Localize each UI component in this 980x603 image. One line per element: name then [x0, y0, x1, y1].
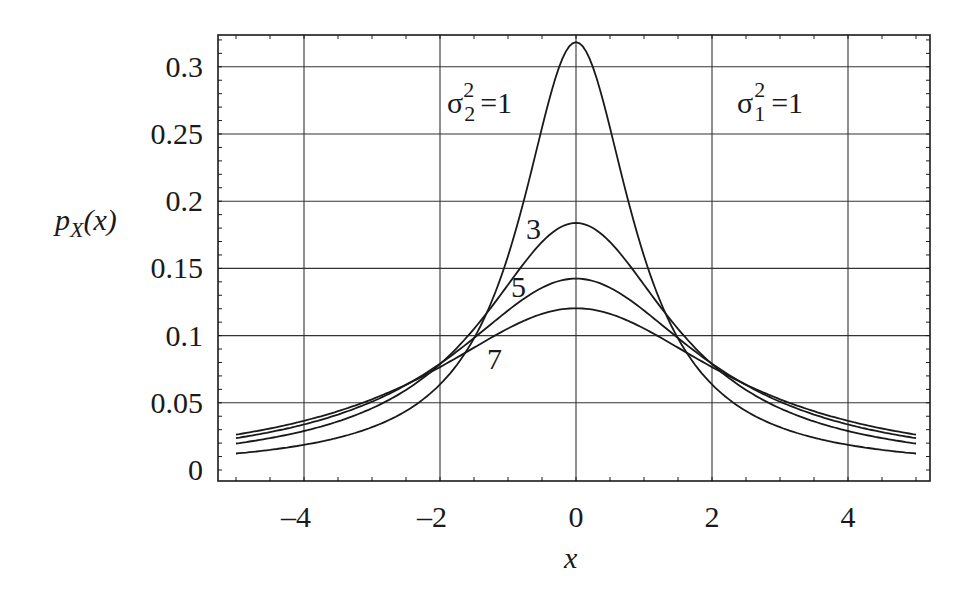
annotation-sigma2: σ22=1 — [447, 77, 512, 126]
y-tick-label: 0.15 — [151, 251, 204, 284]
y-tick-labels: 00.050.10.150.20.250.3 — [151, 50, 204, 486]
x-tick-label: –2 — [416, 500, 447, 533]
y-tick-label: 0 — [188, 453, 203, 486]
curve-label-5: 5 — [511, 270, 526, 303]
y-tick-label: 0.1 — [166, 319, 204, 352]
x-tick-label: 0 — [569, 500, 584, 533]
y-tick-label: 0.25 — [151, 117, 204, 150]
curve-label-7: 7 — [487, 342, 502, 375]
y-tick-label: 0.2 — [166, 184, 204, 217]
x-tick-labels: –4–2024 — [280, 500, 856, 533]
x-tick-label: –4 — [280, 500, 311, 533]
y-tick-label: 0.3 — [166, 50, 204, 83]
annotation-sigma1: σ12=1 — [737, 77, 803, 126]
chart: –4–2024 00.050.10.150.20.250.3 pX(x) x σ… — [0, 0, 980, 603]
y-tick-label: 0.05 — [151, 386, 204, 419]
x-axis-title: x — [563, 541, 578, 574]
x-tick-label: 2 — [705, 500, 720, 533]
curve-label-3: 3 — [526, 212, 541, 245]
x-tick-label: 4 — [841, 500, 856, 533]
y-axis-title: pX(x) — [53, 203, 117, 242]
